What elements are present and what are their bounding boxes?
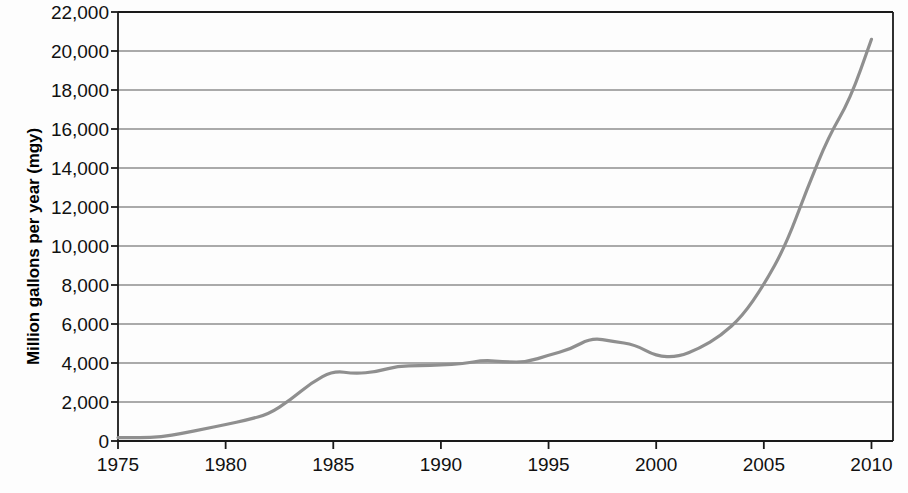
x-tick-label: 1990 (420, 455, 462, 474)
x-tick-label: 1980 (204, 455, 246, 474)
x-tick-label: 2000 (635, 455, 677, 474)
x-tick-label: 2005 (743, 455, 785, 474)
x-tick-label: 1985 (312, 455, 354, 474)
x-tick-label: 1995 (527, 455, 569, 474)
x-axis-tick-labels: 19751980198519901995200020052010 (0, 0, 908, 493)
chart-container: Million gallons per year (mgy) 02,0004,0… (0, 0, 908, 493)
x-tick-label: 2010 (850, 455, 892, 474)
x-tick-label: 1975 (97, 455, 139, 474)
